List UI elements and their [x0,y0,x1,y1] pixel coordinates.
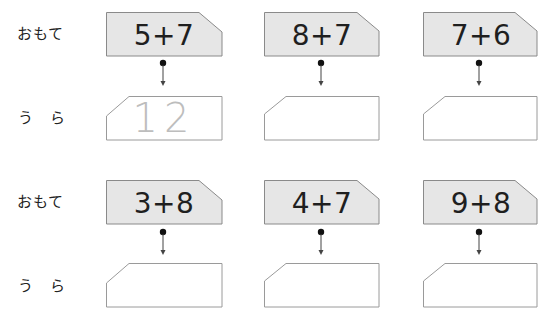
flashcard-back[interactable] [423,96,539,140]
flashcard-front: 9+8 [423,180,539,224]
card-back-answer[interactable] [264,263,380,307]
flip-arrow-icon [316,58,326,88]
flashcard-back[interactable] [423,263,539,307]
flashcard-front: 4+7 [264,180,380,224]
flashcard-front: 7+6 [423,12,539,56]
card-back-answer[interactable] [106,263,222,307]
flashcard-back[interactable]: 12 [106,96,222,140]
flip-arrow-icon [316,227,326,257]
flashcard-front: 5+7 [106,12,222,56]
flashcard-back[interactable] [264,96,380,140]
card-front-problem: 3+8 [106,180,222,225]
flashcard-back[interactable] [264,263,380,307]
card-back-answer[interactable]: 12 [106,96,222,140]
flip-arrow-icon [474,58,484,88]
front-label: おもて [17,25,64,43]
card-back-answer[interactable] [423,263,539,307]
card-front-problem: 7+6 [423,12,539,57]
card-front-problem: 5+7 [106,12,222,57]
front-label: おもて [17,193,64,211]
flashcard-back[interactable] [106,263,222,307]
card-back-answer[interactable] [423,96,539,140]
flip-arrow-icon [158,227,168,257]
card-front-problem: 4+7 [264,180,380,225]
flashcard-front: 3+8 [106,180,222,224]
card-front-problem: 8+7 [264,12,380,57]
flip-arrow-icon [158,58,168,88]
card-back-answer[interactable] [264,96,380,140]
back-label: う ら [18,277,66,295]
flashcard-front: 8+7 [264,12,380,56]
back-label: う ら [18,109,66,127]
flip-arrow-icon [474,227,484,257]
card-front-problem: 9+8 [423,180,539,225]
